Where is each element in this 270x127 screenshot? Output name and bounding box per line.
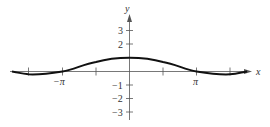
chart: y x 3 2 −1 −2 −3 −π π [0,0,270,127]
y-axis-arrow-icon [127,14,132,22]
x-axis-label: x [255,66,261,77]
y-tick-label-neg3: −3 [112,107,123,118]
y-tick-label-2: 2 [118,39,123,50]
y-tick-label-neg1: −1 [112,80,123,91]
y-tick-label-neg2: −2 [112,93,123,104]
y-axis-label: y [124,3,130,14]
x-tick-label-neg-pi: −π [53,76,66,87]
x-tick-label-pi: π [193,76,199,87]
y-tick-label-3: 3 [118,25,123,36]
